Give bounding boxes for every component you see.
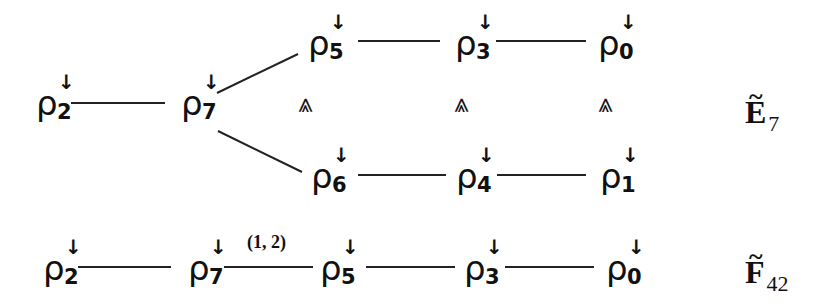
diagram-edges [0,0,826,308]
label-subscript: 42 [767,271,789,296]
down-arrow-superscript: ↓ [58,72,75,92]
node-f42-rho2: ρ ↓ 2 [43,251,65,286]
node-f42-rho7: ρ ↓ 7 [188,251,210,286]
rho-symbol: ρ [600,159,622,193]
down-arrow-superscript: ↓ [333,145,350,165]
down-arrow-superscript: ↓ [330,12,347,32]
subscript: 0 [619,42,634,63]
equiv-icon-col2: ⪡ [448,98,479,113]
subscript: 3 [476,42,491,63]
rho-symbol: ρ [320,251,342,285]
subscript: 5 [341,267,356,288]
down-arrow-superscript: ↓ [628,237,645,257]
rho-symbol: ρ [455,26,477,60]
subscript: 5 [329,42,344,63]
rho-symbol: ρ [43,251,65,285]
node-f42-rho0: ρ ↓ 0 [606,251,628,286]
down-arrow-superscript: ↓ [622,145,639,165]
down-arrow-superscript: ↓ [478,145,495,165]
down-arrow-superscript: ↓ [486,237,503,257]
rho-symbol: ρ [456,159,478,193]
node-e7-rho1: ρ ↓ 1 [600,159,622,194]
rho-symbol: ρ [606,251,628,285]
down-arrow-superscript: ↓ [210,237,227,257]
node-f42-rho5: ρ ↓ 5 [320,251,342,286]
subscript: 7 [209,267,224,288]
subscript: 1 [621,175,636,196]
rho-symbol: ρ [311,159,333,193]
subscript: 0 [627,267,642,288]
subscript: 2 [57,102,72,123]
subscript: 7 [202,102,217,123]
tilde-accent: ~ [749,242,763,272]
tilde-accent: ~ [749,82,763,112]
equiv-icon-col3: ⪡ [592,98,623,113]
node-e7-rho4: ρ ↓ 4 [456,159,478,194]
label-subscript: 7 [768,111,779,136]
subscript: 6 [332,175,347,196]
node-e7-rho2: ρ ↓ 2 [36,86,58,121]
diagram-label-e7: ~ E7 [745,94,779,131]
node-f42-rho3: ρ ↓ 3 [464,251,486,286]
down-arrow-superscript: ↓ [620,12,637,32]
node-e7-rho3: ρ ↓ 3 [455,26,477,61]
subscript: 3 [485,267,500,288]
rho-symbol: ρ [464,251,486,285]
node-e7-rho7: ρ ↓ 7 [181,86,203,121]
rho-symbol: ρ [308,26,330,60]
edge-label-multiplicity: (1, 2) [247,232,286,253]
diagram-label-f42: ~ F42 [745,254,789,291]
rho-symbol: ρ [598,26,620,60]
rho-symbol: ρ [36,86,58,120]
subscript: 2 [64,267,79,288]
subscript: 4 [477,175,492,196]
edge-e7-rho7-rho6 [218,131,302,172]
node-e7-rho5: ρ ↓ 5 [308,26,330,61]
down-arrow-superscript: ↓ [65,237,82,257]
rho-symbol: ρ [181,86,203,120]
down-arrow-superscript: ↓ [203,72,220,92]
equiv-icon-col1: ⪡ [292,98,323,113]
node-e7-rho0: ρ ↓ 0 [598,26,620,61]
rho-symbol: ρ [188,251,210,285]
node-e7-rho6: ρ ↓ 6 [311,159,333,194]
down-arrow-superscript: ↓ [477,12,494,32]
down-arrow-superscript: ↓ [342,237,359,257]
edge-e7-rho7-rho5 [217,54,298,93]
